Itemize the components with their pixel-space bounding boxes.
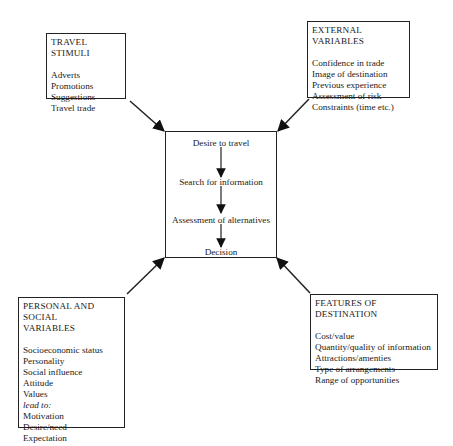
personal-social-item: Values bbox=[23, 389, 120, 400]
travel-stimuli-item: Promotions bbox=[51, 81, 121, 92]
features-destination-item: Range of opportunities bbox=[315, 375, 433, 386]
process-step-assessment: Assessment of alternatives bbox=[166, 215, 276, 226]
features-destination-title: FEATURES OF DESTINATION bbox=[315, 298, 433, 320]
travel-stimuli-item: Travel trade bbox=[51, 103, 121, 114]
features-destination-box: FEATURES OF DESTINATION Cost/value Quant… bbox=[310, 294, 438, 370]
personal-social-outcome: Desire/need bbox=[23, 422, 120, 433]
personal-social-title-line1: PERSONAL AND SOCIAL bbox=[23, 301, 120, 323]
process-step-search: Search for information bbox=[166, 177, 276, 188]
decision-process-box: Desire to travel Search for information … bbox=[165, 131, 277, 258]
external-variables-item: Image of destination bbox=[312, 69, 405, 80]
personal-social-outcome: Motivation bbox=[23, 411, 120, 422]
features-destination-item: Quantity/quality of information bbox=[315, 342, 433, 353]
external-variables-box: EXTERNAL VARIABLES Confidence in trade I… bbox=[307, 21, 410, 98]
external-variables-title: EXTERNAL VARIABLES bbox=[312, 25, 405, 47]
travel-stimuli-title: TRAVEL STIMULI bbox=[51, 37, 121, 59]
external-variables-item: Previous experience bbox=[312, 80, 405, 91]
travel-stimuli-item: Adverts bbox=[51, 70, 121, 81]
personal-social-item: Personality bbox=[23, 356, 120, 367]
personal-social-title-line2: VARIABLES bbox=[23, 323, 120, 334]
arrow-external-variables bbox=[278, 99, 309, 131]
arrow-travel-stimuli bbox=[130, 101, 164, 131]
personal-social-item: Socioeconomic status bbox=[23, 345, 120, 356]
personal-social-box: PERSONAL AND SOCIAL VARIABLES Socioecono… bbox=[18, 297, 125, 428]
features-destination-item: Attractions/amenties bbox=[315, 353, 433, 364]
personal-social-outcome: Expectation bbox=[23, 433, 120, 444]
features-destination-item: Type of arrangements bbox=[315, 364, 433, 375]
travel-stimuli-item: Suggestions bbox=[51, 92, 121, 103]
external-variables-item: Assessment of risk bbox=[312, 91, 405, 102]
external-variables-item: Confidence in trade bbox=[312, 58, 405, 69]
personal-social-item: Social influence bbox=[23, 367, 120, 378]
external-variables-item: Constraints (time etc.) bbox=[312, 102, 405, 113]
arrow-features-destination bbox=[277, 258, 310, 293]
features-destination-item: Cost/value bbox=[315, 331, 433, 342]
personal-social-item: Attitude bbox=[23, 378, 120, 389]
arrow-personal-social bbox=[127, 258, 164, 294]
travel-stimuli-box: TRAVEL STIMULI Adverts Promotions Sugges… bbox=[46, 33, 126, 99]
personal-social-connector: lead to: bbox=[23, 400, 120, 411]
process-step-desire: Desire to travel bbox=[166, 138, 276, 149]
process-step-decision: Decision bbox=[166, 247, 276, 258]
